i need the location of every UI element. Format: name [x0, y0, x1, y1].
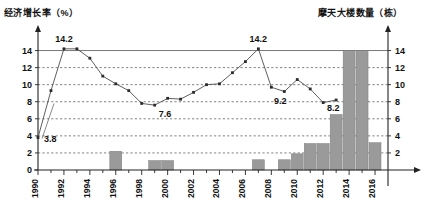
svg-text:2008: 2008 — [263, 179, 273, 198]
svg-text:1992: 1992 — [56, 179, 66, 198]
svg-text:2004: 2004 — [211, 179, 221, 198]
line-markers-group — [37, 47, 338, 139]
svg-text:7.6: 7.6 — [159, 109, 172, 119]
svg-text:8: 8 — [395, 97, 400, 107]
svg-text:4: 4 — [395, 131, 400, 141]
x-axis-ticks-group: 1990199219941996199820002002200420062008… — [30, 170, 377, 198]
svg-text:3.8: 3.8 — [44, 134, 57, 144]
right-axis-ticks-group: 2468101214 — [388, 46, 405, 158]
svg-text:0: 0 — [27, 165, 32, 175]
svg-text:8.2: 8.2 — [327, 103, 340, 113]
svg-text:2: 2 — [395, 148, 400, 158]
svg-text:4: 4 — [27, 131, 32, 141]
svg-text:10: 10 — [22, 80, 32, 90]
svg-text:14.2: 14.2 — [55, 34, 73, 44]
svg-text:14: 14 — [22, 46, 32, 56]
svg-text:6: 6 — [27, 114, 32, 124]
svg-text:2012: 2012 — [315, 179, 325, 198]
svg-text:14.2: 14.2 — [250, 34, 268, 44]
svg-text:2002: 2002 — [186, 179, 196, 198]
svg-text:9.2: 9.2 — [274, 96, 287, 106]
svg-text:2006: 2006 — [237, 179, 247, 198]
svg-text:12: 12 — [395, 63, 405, 73]
svg-text:2016: 2016 — [367, 179, 377, 198]
svg-text:2: 2 — [27, 148, 32, 158]
line-series-group — [38, 49, 336, 138]
svg-text:2014: 2014 — [341, 179, 351, 198]
svg-text:8: 8 — [27, 97, 32, 107]
svg-text:1994: 1994 — [82, 179, 92, 198]
left-axis-ticks-group: 02468101214 — [22, 46, 38, 175]
svg-text:6: 6 — [395, 114, 400, 124]
svg-text:2000: 2000 — [160, 179, 170, 198]
svg-text:12: 12 — [22, 63, 32, 73]
chart-plot-area: 02468101214 2468101214 19901992199419961… — [0, 0, 427, 224]
svg-text:10: 10 — [395, 80, 405, 90]
svg-text:14: 14 — [395, 46, 405, 56]
svg-text:1990: 1990 — [30, 179, 40, 198]
svg-text:1996: 1996 — [108, 179, 118, 198]
svg-text:1998: 1998 — [134, 179, 144, 198]
bar-series-group — [110, 51, 381, 170]
svg-text:2010: 2010 — [289, 179, 299, 198]
chart-container: 经济增长率（%） 摩天大楼数量（栋） 02468101214 246810121… — [0, 0, 427, 224]
